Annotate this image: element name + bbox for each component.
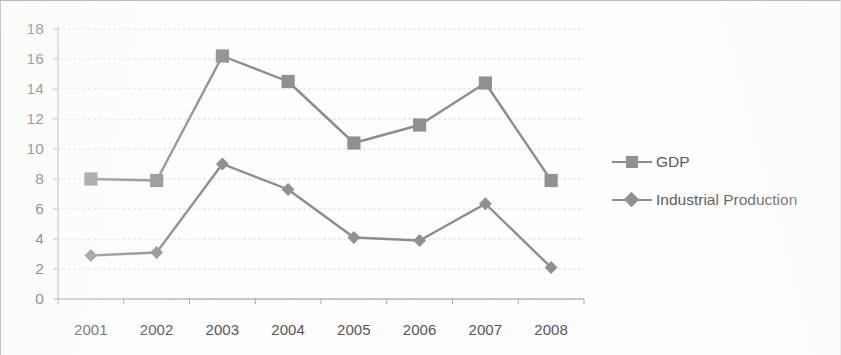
data-point-marker [545, 174, 558, 187]
y-axis-tick-label: 16 [14, 51, 44, 67]
data-point-marker [413, 234, 426, 247]
data-point-marker [413, 118, 426, 131]
y-axis-tick-label: 14 [14, 81, 44, 97]
y-axis-tick-marks [53, 29, 58, 299]
x-axis-tick-label: 2008 [516, 322, 586, 337]
data-point-marker [347, 136, 360, 149]
x-axis-tick-label: 2001 [56, 322, 126, 337]
x-axis-tick-label: 2006 [385, 322, 455, 337]
x-axis-tick-label: 2003 [187, 322, 257, 337]
y-axis-tick-label: 10 [14, 141, 44, 157]
legend-swatch [612, 193, 652, 207]
data-point-marker [282, 75, 295, 88]
axes-group [58, 27, 584, 299]
legend-entry[interactable]: Industrial Production [612, 181, 797, 219]
legend-swatch [612, 155, 652, 169]
chart-legend: GDPIndustrial Production [612, 143, 797, 219]
data-point-marker [216, 49, 229, 62]
data-series-group [84, 49, 557, 274]
series-line [91, 56, 551, 181]
line-chart-figure: 024681012141618 200120022003200420052006… [0, 0, 841, 355]
y-axis-tick-label: 2 [14, 261, 44, 277]
y-axis-tick-label: 6 [14, 201, 44, 217]
legend-label: Industrial Production [656, 191, 797, 209]
y-axis-tick-label: 18 [14, 21, 44, 37]
x-axis-tick-label: 2004 [253, 322, 323, 337]
y-axis-tick-label: 12 [14, 111, 44, 127]
legend-square-marker-icon [626, 156, 638, 168]
x-axis-tick-label: 2002 [122, 322, 192, 337]
y-axis-tick-label: 4 [14, 231, 44, 247]
data-point-marker [479, 76, 492, 89]
legend-entry[interactable]: GDP [612, 143, 797, 181]
data-point-marker [150, 174, 163, 187]
x-axis-tick-label: 2005 [319, 322, 389, 337]
gridlines-group [58, 29, 584, 299]
legend-label: GDP [656, 153, 690, 171]
data-point-marker [84, 172, 97, 185]
y-axis-tick-label: 8 [14, 171, 44, 187]
legend-diamond-marker-icon [624, 192, 640, 208]
y-axis-tick-label: 0 [14, 291, 44, 307]
data-point-marker [84, 249, 97, 262]
x-axis-tick-marks [58, 299, 584, 304]
x-axis-tick-label: 2007 [450, 322, 520, 337]
